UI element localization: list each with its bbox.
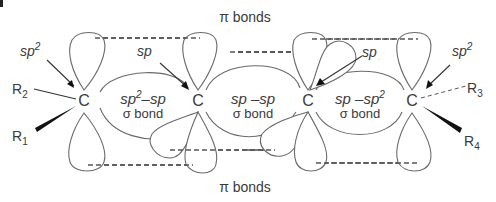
carbon-1: C	[78, 92, 90, 109]
sigma-bond-1-title: sp2–sp	[120, 89, 166, 107]
carbon-4: C	[406, 92, 418, 109]
c4-hybrid-label: sp2	[452, 41, 473, 59]
c1-hybrid-label: sp2	[20, 41, 41, 59]
r1-label: R1	[12, 128, 28, 147]
r2-label: R2	[12, 81, 28, 100]
c2-hybrid-label: sp	[137, 43, 152, 59]
sigma-bond-3-title: sp –sp2	[335, 89, 385, 107]
r1-wedge	[35, 106, 76, 132]
c3-hybrid-label: sp	[362, 44, 377, 60]
top-pi-bonds-label: π bonds	[219, 9, 271, 25]
sigma-bond-3-caption: σ bond	[340, 106, 381, 121]
r4-label: R4	[464, 133, 480, 152]
allene-orbital-diagram: π bonds π bonds C C C C sp2 sp sp sp2 R2…	[0, 0, 496, 202]
bottom-pi-bonds-label: π bonds	[219, 179, 271, 195]
r4-wedge	[422, 106, 462, 133]
carbon-3: C	[302, 92, 314, 109]
r2-bond	[34, 89, 76, 99]
sigma-bond-2-caption: σ bond	[233, 106, 274, 121]
carbon-2: C	[192, 92, 204, 109]
sigma-bond-1-caption: σ bond	[123, 106, 164, 121]
r3-label: R3	[467, 80, 483, 99]
sigma-bond-2-title: sp –sp	[231, 90, 275, 107]
